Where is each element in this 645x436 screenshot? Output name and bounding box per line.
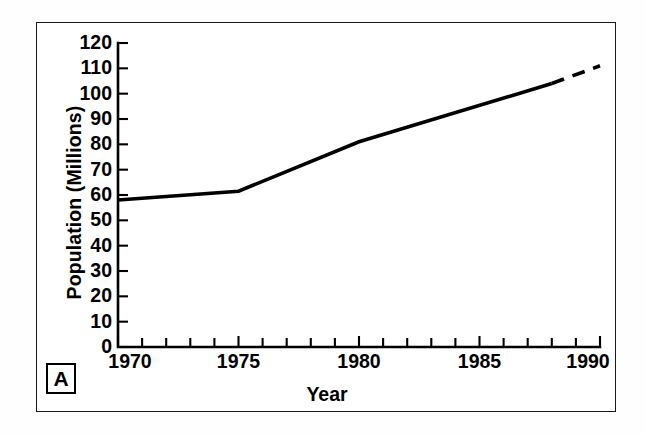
figure-root: Population (Millions) Year A 01020304050… — [0, 0, 645, 436]
figure-frame: Population (Millions) Year A — [36, 22, 616, 412]
panel-label-a: A — [46, 363, 76, 394]
y-axis-title: Population (Millions) — [63, 68, 86, 338]
x-axis-title: Year — [37, 383, 617, 406]
